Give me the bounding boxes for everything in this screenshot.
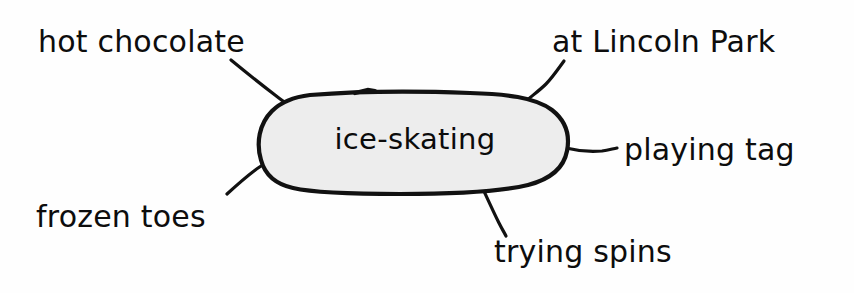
center-bubble-label: ice-skating	[290, 122, 540, 156]
connector-hot-chocolate	[231, 60, 289, 105]
connector-trying-spins	[483, 189, 506, 236]
branch-label-at-lincoln-park[interactable]: at Lincoln Park	[552, 24, 775, 59]
connector-frozen-toes	[227, 162, 267, 194]
branch-label-hot-chocolate[interactable]: hot chocolate	[38, 24, 245, 59]
bubble-top-notch-artifact	[355, 90, 375, 93]
branch-label-playing-tag[interactable]: playing tag	[624, 132, 795, 167]
branch-label-trying-spins[interactable]: trying spins	[494, 234, 672, 269]
branch-label-frozen-toes[interactable]: frozen toes	[36, 199, 206, 234]
connector-playing-tag	[566, 148, 617, 151]
connector-at-lincoln-park	[526, 61, 564, 101]
diagram-canvas: ice-skating hot chocolate at Lincoln Par…	[0, 0, 854, 293]
